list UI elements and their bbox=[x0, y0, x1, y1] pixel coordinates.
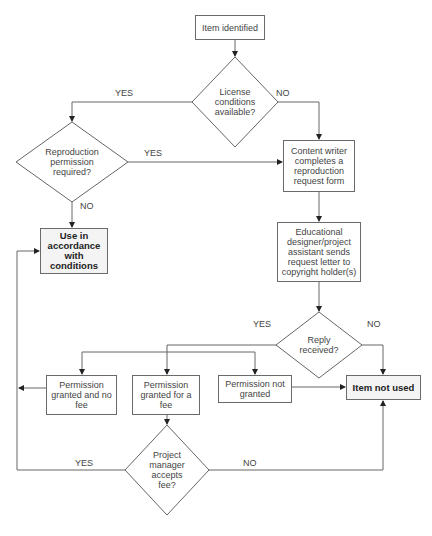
reply-yes-label: YES bbox=[253, 319, 271, 329]
repro-yes-label: YES bbox=[144, 148, 162, 158]
license-yes-label: YES bbox=[115, 88, 133, 98]
permission-not-granted-box: Permission not granted bbox=[218, 375, 292, 403]
content-writer-box: Content writer completes a reproduction … bbox=[283, 140, 355, 192]
license-conditions-decision: License conditions available? bbox=[205, 85, 265, 119]
item-identified-box: Item identified bbox=[195, 15, 265, 40]
license-no-label: NO bbox=[276, 88, 290, 98]
reply-received-decision: Reply received? bbox=[294, 332, 344, 358]
permission-no-fee-box: Permission granted and no fee bbox=[46, 375, 117, 415]
pm-accepts-fee-decision: Project manager accepts fee? bbox=[142, 447, 192, 493]
item-not-used-box: Item not used bbox=[346, 375, 421, 400]
pm-yes-label: YES bbox=[75, 458, 93, 468]
reply-no-label: NO bbox=[367, 319, 381, 329]
use-in-accordance-box: Use in accordance with conditions bbox=[40, 228, 108, 274]
permission-fee-box: Permission granted for a fee bbox=[132, 375, 200, 415]
educational-designer-box: Educational designer/project assistant s… bbox=[277, 222, 361, 282]
repro-no-label: NO bbox=[80, 201, 94, 211]
pm-no-label: NO bbox=[243, 458, 257, 468]
reproduction-permission-decision: Reproduction permission required? bbox=[36, 145, 108, 179]
